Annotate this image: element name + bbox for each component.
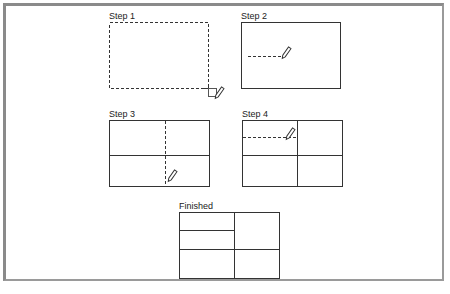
pencil-icon — [281, 47, 291, 59]
pencil-icon — [167, 170, 177, 182]
pencil-icon — [285, 128, 295, 140]
step-3-panel — [110, 121, 210, 187]
step-1-panel — [110, 23, 217, 97]
step-2-panel — [242, 23, 341, 89]
finished-panel — [180, 213, 280, 279]
pencil-icons — [167, 47, 295, 182]
table-drawing-diagram — [0, 0, 450, 294]
